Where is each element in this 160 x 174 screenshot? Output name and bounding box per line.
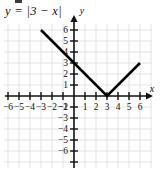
coordinate-plane: −6 −5 −4 −3 −2 −1 1 2 3 4 5 6 6 5 4 3 2 … xyxy=(0,0,160,174)
y-tick-label: −4 xyxy=(58,124,68,134)
graph-figure: y = |3 − x| xyxy=(0,0,160,174)
equation-label: y = |3 − x| xyxy=(5,4,62,19)
x-axis-label: x xyxy=(149,83,155,94)
y-tick-label: −6 xyxy=(58,146,68,156)
y-tick-label: −2 xyxy=(58,102,68,112)
x-tick-label: 1 xyxy=(83,102,88,112)
y-tick-label: 6 xyxy=(63,25,68,35)
y-axis xyxy=(70,15,78,168)
x-tick-label: −3 xyxy=(36,102,46,112)
x-tick-label: 2 xyxy=(94,102,99,112)
x-tick-label: 3 xyxy=(105,102,110,112)
y-axis-label: y xyxy=(79,5,85,16)
y-tick-label: 2 xyxy=(63,69,68,79)
y-tick-label: 5 xyxy=(63,36,68,46)
y-tick-label: 1 xyxy=(63,80,68,90)
page-artifact-mark xyxy=(15,0,22,3)
x-axis xyxy=(5,92,153,100)
x-tick-label: −2 xyxy=(47,102,57,112)
x-tick-label: 6 xyxy=(138,102,143,112)
x-tick-label: 5 xyxy=(127,102,132,112)
x-tick-label: −4 xyxy=(25,102,35,112)
y-tick-label: −5 xyxy=(58,135,68,145)
y-tick-label: −3 xyxy=(58,113,68,123)
x-tick-label: 4 xyxy=(116,102,121,112)
x-tick-label: −6 xyxy=(3,102,13,112)
y-tick-label: 3 xyxy=(63,58,68,68)
x-tick-label: −5 xyxy=(14,102,24,112)
